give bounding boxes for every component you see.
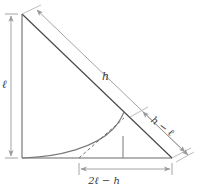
- overhang-extension-lower: [176, 152, 194, 162]
- diagonal-extension-top: [22, 5, 41, 14]
- label-base-segment: 2ℓ − h: [88, 176, 120, 186]
- triangle-hypotenuse: [22, 14, 172, 158]
- overhang-extension-upper: [130, 107, 148, 117]
- geometry-figure: ℓ h h − ℓ 2ℓ − h: [0, 0, 197, 191]
- label-vertical-leg: ℓ: [2, 79, 7, 90]
- triangle-outline: [22, 14, 172, 158]
- envelope-curve: [22, 112, 124, 158]
- label-hypotenuse: h: [102, 71, 109, 82]
- diagonal-extension-bottom: [172, 148, 191, 158]
- figure-canvas: [0, 0, 197, 191]
- diagonal-dimension-overhang: [130, 107, 194, 162]
- base-dimension: [79, 163, 172, 175]
